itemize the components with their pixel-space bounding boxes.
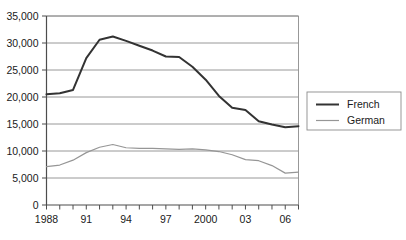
y-tick-label: 25,000 [6, 64, 38, 76]
y-tick-label: 20,000 [6, 91, 38, 103]
x-tick-label: 91 [80, 213, 92, 225]
legend-label-german: German [347, 114, 385, 126]
y-tick-label: 0 [33, 199, 39, 211]
legend-label-french: French [347, 98, 380, 110]
x-tick-label: 03 [240, 213, 252, 225]
chart-container: 05,00010,00015,00020,00025,00030,00035,0… [0, 0, 406, 240]
y-tick-label: 15,000 [6, 118, 38, 130]
y-tick-label: 10,000 [6, 145, 38, 157]
x-tick-label: 2000 [194, 213, 218, 225]
x-tick-label: 94 [120, 213, 132, 225]
y-tick-label: 5,000 [12, 172, 38, 184]
y-tick-label: 30,000 [6, 37, 38, 49]
x-tick-label: 97 [160, 213, 172, 225]
x-tick-label: 06 [279, 213, 291, 225]
x-tick-label: 1988 [35, 213, 59, 225]
line-chart: 05,00010,00015,00020,00025,00030,00035,0… [0, 0, 406, 240]
chart-legend: FrenchGerman [307, 92, 401, 130]
y-tick-label: 35,000 [6, 10, 38, 22]
